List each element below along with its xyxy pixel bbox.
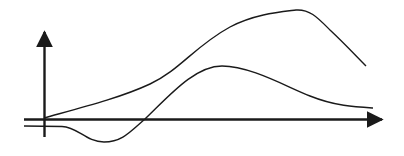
diagram-svg [0, 0, 404, 156]
lower-curve [24, 66, 373, 142]
upper-curve [44, 10, 366, 118]
diagram-canvas [0, 0, 404, 156]
